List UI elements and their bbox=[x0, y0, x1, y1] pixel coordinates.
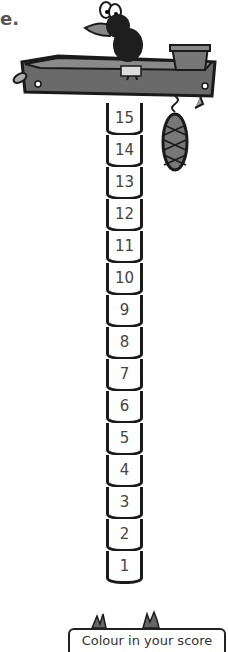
hanging-feeder-icon bbox=[163, 96, 203, 170]
score-segment-12[interactable]: 12 bbox=[106, 199, 143, 232]
score-segment-7[interactable]: 7 bbox=[106, 359, 143, 392]
tray-icon bbox=[12, 45, 215, 96]
score-segment-15[interactable]: 15 bbox=[106, 103, 143, 136]
score-segment-8[interactable]: 8 bbox=[106, 327, 143, 360]
score-segment-1[interactable]: 1 bbox=[106, 551, 143, 584]
score-segment-9[interactable]: 9 bbox=[106, 295, 143, 328]
score-segment-14[interactable]: 14 bbox=[106, 135, 143, 168]
score-segment-3[interactable]: 3 bbox=[106, 487, 143, 520]
grass-icon bbox=[92, 612, 159, 628]
score-segment-4[interactable]: 4 bbox=[106, 455, 143, 488]
score-segment-13[interactable]: 13 bbox=[106, 167, 143, 200]
score-segment-11[interactable]: 11 bbox=[106, 231, 143, 264]
score-segment-2[interactable]: 2 bbox=[106, 519, 143, 552]
score-segment-5[interactable]: 5 bbox=[106, 423, 143, 456]
caption-label: Colour in your score bbox=[68, 628, 226, 652]
score-tower: 15 14 13 12 11 10 9 8 7 6 5 4 3 2 1 bbox=[106, 104, 143, 584]
score-segment-10[interactable]: 10 bbox=[106, 263, 143, 296]
score-segment-6[interactable]: 6 bbox=[106, 391, 143, 424]
